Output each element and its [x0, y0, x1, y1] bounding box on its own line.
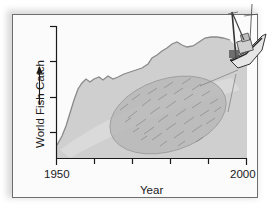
fishing-boat-illustration	[228, 4, 266, 68]
y-axis-title-wrap: World Fish Catch	[22, 30, 40, 150]
x-axis	[56, 158, 247, 165]
x-tick-label-start: 1950	[44, 168, 70, 180]
y-axis	[50, 26, 57, 158]
y-axis-title: World Fish Catch	[34, 28, 46, 148]
x-tick-label-end: 2000	[230, 168, 256, 180]
x-axis-title: Year	[140, 184, 163, 196]
